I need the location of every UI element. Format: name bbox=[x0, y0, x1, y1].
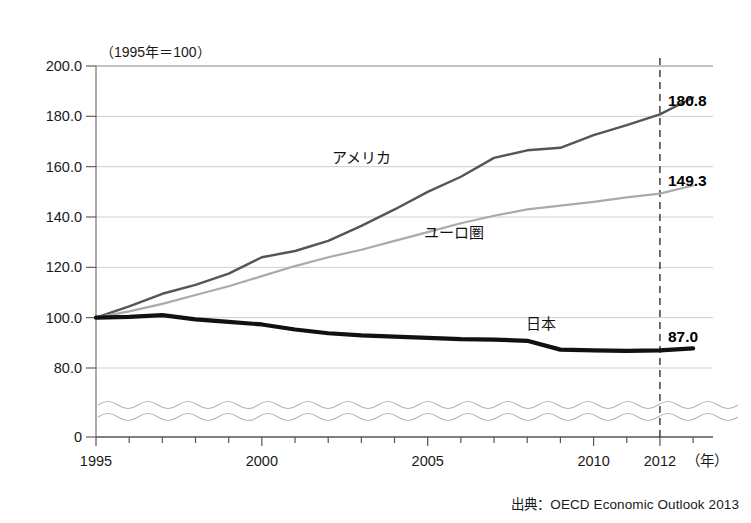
break-wave-lower bbox=[98, 414, 738, 421]
axes-group bbox=[86, 66, 713, 446]
break-wave-upper bbox=[98, 402, 738, 409]
y-tick-label-120: 120.0 bbox=[46, 259, 82, 275]
y-tick-label-100: 100.0 bbox=[46, 310, 82, 326]
x-tick-label-1995: 1995 bbox=[80, 453, 112, 469]
series-label-usa: アメリカ bbox=[332, 149, 391, 166]
chart-figure: 200.0180.0160.0140.0120.0100.080.00（1995… bbox=[0, 0, 751, 523]
unit-note: （1995年＝100） bbox=[100, 44, 211, 60]
source-note: 出典：OECD Economic Outlook 2013 bbox=[511, 493, 739, 513]
y-axis-tick-labels: 200.0180.0160.0140.0120.0100.080.00（1995… bbox=[46, 44, 211, 445]
x-tick-label-2010: 2010 bbox=[577, 453, 609, 469]
series-line-usa bbox=[96, 97, 693, 317]
y-tick-label-200: 200.0 bbox=[46, 58, 82, 74]
y-tick-label-180: 180.0 bbox=[46, 108, 82, 124]
value-label-japan: 87.0 bbox=[668, 328, 698, 345]
y-tick-label-0: 0 bbox=[74, 429, 82, 445]
series-label-japan: 日本 bbox=[526, 315, 556, 332]
y-tick-label-80: 80.0 bbox=[54, 360, 82, 376]
series-line-japan bbox=[96, 315, 693, 351]
series-label-euro: ユーロ圏 bbox=[424, 224, 484, 241]
x-tick-label-2005: 2005 bbox=[412, 453, 444, 469]
x-tick-label-2000: 2000 bbox=[246, 453, 278, 469]
value-label-usa: 180.8 bbox=[668, 92, 707, 109]
series-line-euro bbox=[96, 186, 693, 318]
series-lines-group bbox=[96, 97, 693, 350]
y-tick-label-160: 160.0 bbox=[46, 159, 82, 175]
series-annotations: アメリカユーロ圏日本180.8149.387.0 bbox=[332, 92, 707, 345]
x-axis-unit-label: （年） bbox=[686, 453, 728, 469]
value-label-euro: 149.3 bbox=[668, 172, 707, 189]
x-tick-label-2012: 2012 bbox=[644, 453, 676, 469]
x-axis-tick-labels: 19952000200520102012（年） bbox=[80, 453, 728, 469]
y-tick-label-140: 140.0 bbox=[46, 209, 82, 225]
axis-break-wave bbox=[98, 402, 738, 421]
gridlines-group bbox=[96, 66, 713, 368]
line-chart-canvas: 200.0180.0160.0140.0120.0100.080.00（1995… bbox=[0, 0, 751, 523]
